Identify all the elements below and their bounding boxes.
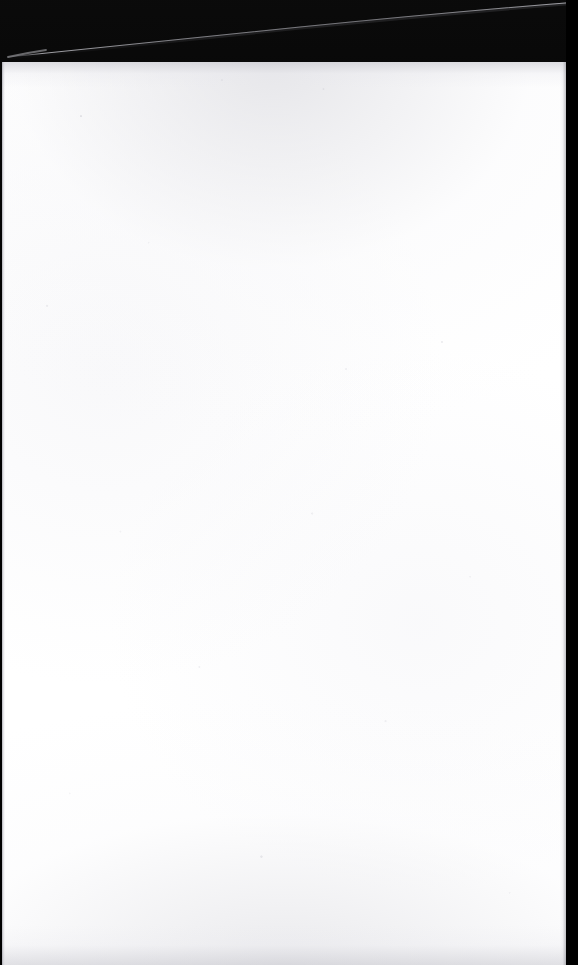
scanner-bed-right-bar xyxy=(566,0,578,965)
paper-grain-texture xyxy=(2,62,566,965)
page-top-edge-shadow xyxy=(2,62,566,88)
scan-speckle-noise xyxy=(2,62,566,965)
page-bottom-edge-shadow xyxy=(2,925,566,965)
page-sheet xyxy=(2,62,566,965)
scan-canvas xyxy=(0,0,578,965)
gutter-shadow-line xyxy=(2,62,5,965)
